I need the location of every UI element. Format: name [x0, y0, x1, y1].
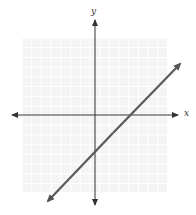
y-axis-label: y [91, 6, 96, 16]
coordinate-plane [0, 0, 196, 215]
x-axis-label: x [184, 108, 189, 118]
